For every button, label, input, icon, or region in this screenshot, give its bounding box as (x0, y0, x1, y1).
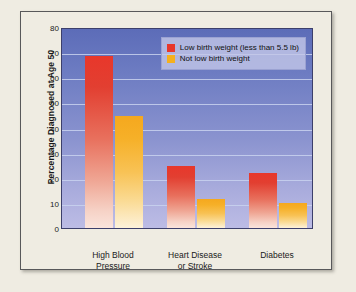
y-tick-50: 50 (19, 99, 59, 108)
plot-area-wrapper: 0 10 20 30 40 50 60 70 80 (61, 28, 313, 229)
y-tick-10: 10 (19, 199, 59, 208)
y-tick-30: 30 (19, 149, 59, 158)
y-tick-0: 0 (19, 225, 59, 234)
bar-not-low-birth-weight-diabetes (279, 203, 307, 228)
legend-label-low-birth-weight: Low birth weight (less than 5.5 lb) (180, 43, 299, 53)
legend-label-not-low-birth-weight: Not low birth weight (180, 54, 250, 64)
legend-item-not-low-birth-weight: Not low birth weight (167, 54, 299, 64)
bar-not-low-birth-weight-heart-disease-or-stroke (197, 199, 225, 228)
chart-figure: Percentage Diagnosed at Age 50 0 10 20 3… (20, 11, 332, 270)
y-tick-60: 60 (19, 74, 59, 83)
bar-not-low-birth-weight-high-blood-pressure (115, 116, 143, 228)
bar-low-birth-weight-high-blood-pressure (85, 56, 113, 228)
bar-group-high-blood-pressure (85, 29, 143, 228)
plot-area: Low birth weight (less than 5.5 lb) Not … (61, 28, 313, 229)
bar-low-birth-weight-heart-disease-or-stroke (167, 166, 195, 228)
y-tick-70: 70 (19, 49, 59, 58)
bar-low-birth-weight-diabetes (249, 173, 277, 228)
y-tick-40: 40 (19, 124, 59, 133)
legend-swatch-yellow-icon (167, 55, 175, 63)
x-label-line-1: Diabetes (227, 250, 327, 261)
y-tick-80: 80 (19, 24, 59, 33)
chart-legend: Low birth weight (less than 5.5 lb) Not … (161, 37, 306, 70)
x-label-line-2: or Stroke (145, 261, 245, 272)
legend-swatch-red-icon (167, 44, 175, 52)
x-label-diabetes: Diabetes (227, 250, 327, 261)
y-tick-20: 20 (19, 174, 59, 183)
y-axis-title: Percentage Diagnosed at Age 50 (46, 17, 56, 217)
legend-item-low-birth-weight: Low birth weight (less than 5.5 lb) (167, 43, 299, 53)
